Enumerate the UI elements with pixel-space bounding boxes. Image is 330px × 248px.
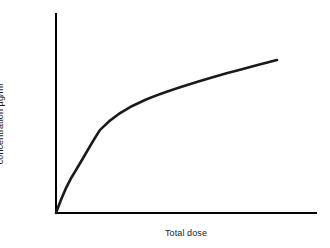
plot-background <box>0 0 330 248</box>
chart-figure: Total (free plus bound) concentration µg… <box>0 0 330 248</box>
plot-area <box>0 0 330 248</box>
x-axis-label: Total dose <box>56 228 316 239</box>
